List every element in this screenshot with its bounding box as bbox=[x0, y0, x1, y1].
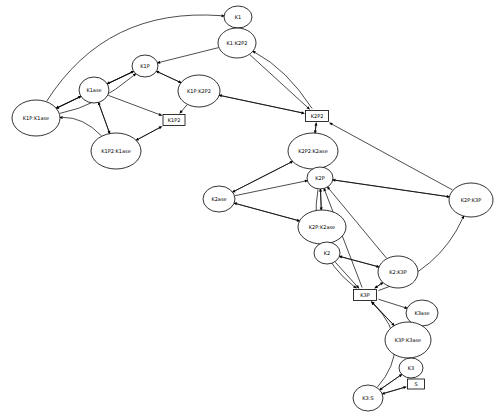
node-K2P[interactable]: K2P bbox=[307, 167, 333, 189]
edge-K1_K2P2-to-K2P2 bbox=[250, 55, 308, 108]
edge-K3_S-to-K3 bbox=[380, 376, 400, 390]
edge-K1P2_K1ase-to-K1ase bbox=[99, 105, 109, 133]
node-S[interactable]: S bbox=[408, 379, 425, 389]
node-label-K1: K1 bbox=[235, 14, 241, 20]
edge-K2P2-to-K1P_K2P2 bbox=[222, 96, 304, 113]
node-K1P_K1ase[interactable]: K1P:K1ase bbox=[12, 100, 60, 136]
node-K2P2[interactable]: K2P2 bbox=[306, 111, 329, 122]
node-label-K3P_K3ase: K3P:K3ase bbox=[395, 337, 421, 343]
node-label-K1P2_K1ase: K1P2:K1ase bbox=[101, 148, 131, 154]
node-label-S: S bbox=[414, 381, 417, 387]
edge-K1P2_K1ase-to-K1P_K1ase bbox=[63, 117, 102, 135]
node-label-K3ase: K3ase bbox=[414, 310, 429, 316]
edge-K2P_K2ase-to-K2P bbox=[321, 192, 322, 210]
node-label-K1P2: K1P2 bbox=[168, 117, 181, 123]
edge-K2P_K3P-to-K2P2 bbox=[332, 124, 452, 190]
edge-K1P_K2P2-to-K1P bbox=[159, 72, 181, 82]
node-K3P[interactable]: K3P bbox=[354, 290, 377, 301]
arrowhead-K1ase-to-K1P2 bbox=[159, 113, 163, 116]
node-label-K3_S: K3:S bbox=[362, 395, 373, 401]
edge-K2_K3P-to-K2 bbox=[342, 257, 379, 267]
node-label-K2P_K2ase: K2P:K2ase bbox=[309, 224, 335, 230]
node-label-K1_K2P2: K1:K2P2 bbox=[227, 40, 248, 46]
node-label-K2P2: K2P2 bbox=[311, 113, 324, 119]
edge-K1P2-to-K1P2_K1ase bbox=[138, 127, 161, 139]
node-K1_K2P2[interactable]: K1:K2P2 bbox=[218, 28, 256, 58]
node-label-K1ase: K1ase bbox=[86, 87, 101, 93]
graph-canvas: K1K1:K2P2K1PK1aseK1P:K2P2K1P:K1aseK1P2K1… bbox=[0, 0, 500, 420]
node-label-K3P: K3P bbox=[360, 292, 369, 298]
node-K2P_K2ase[interactable]: K2P:K2ase bbox=[298, 210, 346, 244]
edge-K1_K2P2-to-K1P bbox=[160, 48, 218, 63]
edge-K1P_K2P2-to-K1P2 bbox=[182, 105, 187, 111]
node-label-K1P_K1ase: K1P:K1ase bbox=[23, 115, 49, 121]
node-K2[interactable]: K2 bbox=[314, 242, 340, 264]
edge-K2ase-to-K2P bbox=[235, 181, 305, 196]
node-label-K2P: K2P bbox=[315, 175, 324, 181]
arrowhead-K2P2_K2ase-to-K2P2 bbox=[314, 122, 317, 126]
node-K2P_K3P[interactable]: K2P:K3P bbox=[449, 183, 493, 217]
node-K1P2[interactable]: K1P2 bbox=[163, 115, 185, 126]
edge-K3P-to-K3ase bbox=[378, 299, 404, 307]
node-label-K2_K3P: K2:K3P bbox=[389, 269, 407, 275]
node-K2_K3P[interactable]: K2:K3P bbox=[378, 256, 418, 288]
reaction-network-diagram: K1K1:K2P2K1PK1aseK1P:K2P2K1P:K1aseK1P2K1… bbox=[0, 0, 500, 420]
node-K2ase[interactable]: K2ase bbox=[203, 186, 235, 212]
node-K3_S[interactable]: K3:S bbox=[353, 385, 383, 411]
edge-K2P2-to-K1_K2P2 bbox=[255, 53, 312, 109]
edge-K1ase-to-K1P bbox=[108, 72, 132, 83]
node-label-K2P2_K2ase: K2P2:K2ase bbox=[298, 148, 328, 154]
node-K1ase[interactable]: K1ase bbox=[79, 77, 109, 103]
node-label-K3: K3 bbox=[408, 365, 414, 371]
node-label-K1P_K2P2: K1P:K2P2 bbox=[187, 88, 211, 94]
node-K1P[interactable]: K1P bbox=[132, 55, 158, 77]
node-layer: K1K1:K2P2K1PK1aseK1P:K2P2K1P:K1aseK1P2K1… bbox=[12, 6, 493, 411]
node-label-K2: K2 bbox=[324, 250, 330, 256]
node-label-K2ase: K2ase bbox=[211, 196, 226, 202]
node-K3[interactable]: K3 bbox=[399, 358, 423, 378]
node-K2P2_K2ase[interactable]: K2P2:K2ase bbox=[288, 133, 338, 169]
node-K1P2_K1ase[interactable]: K1P2:K1ase bbox=[91, 133, 141, 169]
node-K1[interactable]: K1 bbox=[224, 6, 252, 28]
node-label-K1P: K1P bbox=[140, 63, 149, 69]
node-K1P_K2P2[interactable]: K1P:K2P2 bbox=[178, 75, 220, 107]
node-label-K2P_K3P: K2P:K3P bbox=[461, 197, 482, 203]
edge-K1ase-to-K1P2 bbox=[108, 95, 159, 114]
edge-S-to-K3_S bbox=[385, 387, 406, 393]
edge-K2ase-to-K2P_K2ase bbox=[235, 203, 297, 220]
node-K3P_K3ase[interactable]: K3P:K3ase bbox=[385, 322, 431, 358]
edge-K2ase-to-K2P2_K2ase bbox=[233, 163, 290, 192]
edge-K2P-to-K2P_K3P bbox=[333, 180, 447, 197]
